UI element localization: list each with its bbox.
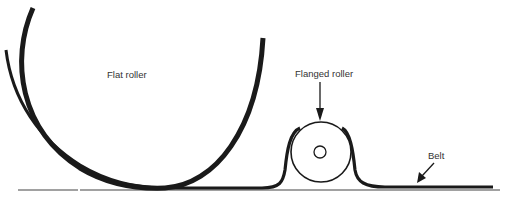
flanged-roller-arrow-icon [316,82,324,121]
flat-roller [22,8,263,188]
belt-label: Belt [428,150,444,161]
flanged-roller-label: Flanged roller [295,68,353,79]
belt-roller-diagram [0,0,505,197]
belt-arrow-icon [417,163,434,183]
flanged-roller [291,122,351,182]
flat-roller-label: Flat roller [107,69,147,80]
